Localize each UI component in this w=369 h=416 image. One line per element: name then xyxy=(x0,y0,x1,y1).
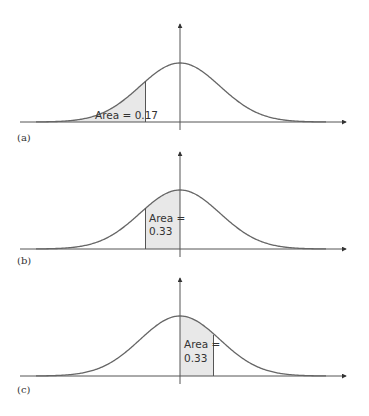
panel-label: (b) xyxy=(17,255,31,266)
area-annotation-line2: 0.33 xyxy=(149,225,172,237)
panel-label: (a) xyxy=(17,132,31,143)
panel-label: (c) xyxy=(17,384,31,395)
normal-distribution-figure: Area = 0.17 (a) Area = 0.33 (b) Area = 0… xyxy=(0,0,369,416)
area-annotation: Area = 0.17 xyxy=(95,109,158,121)
panel-c: Area = 0.33 (c) xyxy=(17,278,346,395)
area-annotation-line1: Area = xyxy=(184,338,220,350)
panel-b: Area = 0.33 (b) xyxy=(17,152,346,266)
normal-curve xyxy=(36,63,326,122)
panel-a: Area = 0.17 (a) xyxy=(17,24,346,143)
area-annotation-line2: 0.33 xyxy=(184,352,207,364)
area-annotation-line1: Area = xyxy=(149,212,185,224)
